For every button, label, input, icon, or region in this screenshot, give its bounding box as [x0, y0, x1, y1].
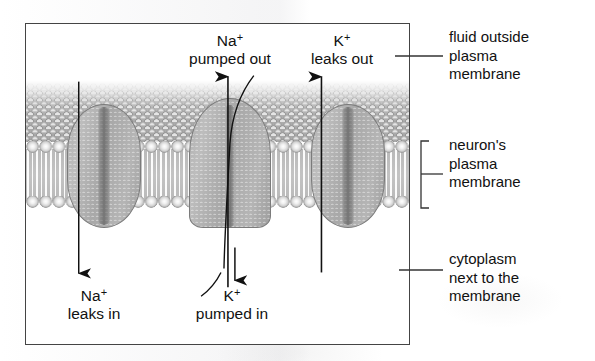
- label-na-pumped-out: Na+ pumped out: [176, 32, 284, 68]
- label-k-pumped-in: K+ pumped in: [174, 287, 290, 323]
- figure-frame: Na+ pumped out K+ leaks out Na+ leaks in…: [25, 23, 410, 345]
- label-na-leaks-in: Na+ leaks in: [44, 287, 144, 323]
- callout-fluid-outside: fluid outside plasma membrane: [449, 28, 529, 84]
- callout-cytoplasm: cytoplasm next to the membrane: [449, 250, 521, 306]
- figure-page: Na+ pumped out K+ leaks out Na+ leaks in…: [0, 0, 595, 361]
- label-k-leaks-out: K+ leaks out: [294, 32, 390, 68]
- membrane-scene: Na+ pumped out K+ leaks out Na+ leaks in…: [26, 24, 409, 344]
- bracket-neurons-membrane: [421, 141, 429, 208]
- callout-neurons-plasma-membrane: neuron's plasma membrane: [449, 136, 521, 192]
